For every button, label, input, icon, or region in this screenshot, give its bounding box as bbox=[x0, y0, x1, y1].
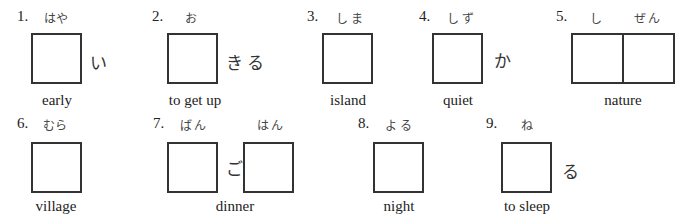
item-number: 7. bbox=[153, 115, 164, 132]
okurigana: る bbox=[562, 158, 579, 183]
kanji-answer-box-double bbox=[571, 33, 675, 84]
item-number: 2. bbox=[152, 8, 163, 25]
item-number: 5. bbox=[556, 8, 567, 25]
meaning: early bbox=[27, 92, 87, 109]
meaning: nature bbox=[593, 92, 653, 109]
okurigana: きる bbox=[226, 49, 268, 74]
meaning: to sleep bbox=[487, 198, 567, 215]
reading: ばん bbox=[180, 116, 208, 133]
reading: ね bbox=[521, 116, 533, 133]
reading: しず bbox=[447, 9, 477, 26]
meaning: village bbox=[26, 198, 86, 215]
item-number: 3. bbox=[307, 8, 318, 25]
reading: はん bbox=[257, 116, 285, 133]
reading: ぜん bbox=[634, 9, 662, 26]
kanji-answer-box[interactable] bbox=[432, 33, 483, 84]
kanji-answer-box[interactable] bbox=[501, 142, 552, 193]
okurigana: い bbox=[90, 49, 107, 74]
reading: し bbox=[590, 9, 602, 26]
reading: よる bbox=[385, 116, 415, 133]
meaning: island bbox=[318, 92, 378, 109]
item-number: 4. bbox=[419, 8, 430, 25]
item-number: 1. bbox=[17, 8, 28, 25]
reading: しま bbox=[336, 9, 366, 26]
kanji-answer-box[interactable] bbox=[31, 33, 82, 84]
meaning: dinner bbox=[195, 198, 275, 215]
kanji-answer-box[interactable] bbox=[243, 142, 294, 193]
kanji-answer-box[interactable] bbox=[31, 142, 82, 193]
kanji-answer-box[interactable] bbox=[167, 33, 218, 84]
item-number: 8. bbox=[358, 115, 369, 132]
meaning: to get up bbox=[155, 92, 235, 109]
item-number: 6. bbox=[17, 115, 28, 132]
reading: お bbox=[185, 9, 197, 26]
kanji-answer-box[interactable] bbox=[373, 142, 424, 193]
item-number: 9. bbox=[486, 115, 497, 132]
okurigana: ご bbox=[226, 155, 243, 180]
okurigana: か bbox=[494, 47, 511, 72]
kanji-answer-box[interactable] bbox=[624, 35, 673, 82]
meaning: quiet bbox=[428, 92, 488, 109]
reading: むら bbox=[43, 116, 67, 133]
kanji-answer-box[interactable] bbox=[322, 33, 373, 84]
meaning: night bbox=[369, 198, 429, 215]
reading: はや bbox=[44, 9, 68, 26]
kanji-answer-box[interactable] bbox=[573, 35, 624, 82]
kanji-answer-box[interactable] bbox=[167, 142, 218, 193]
